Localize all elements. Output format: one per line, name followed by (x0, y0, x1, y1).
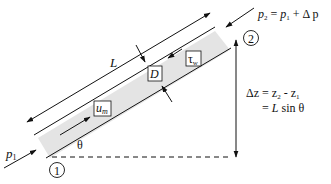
outlet-pressure-arrow (226, 8, 254, 27)
length-label: L (109, 55, 117, 70)
station-2-label: 2 (248, 32, 254, 46)
elevation-equation-line1: Δz = z2 - z1 (246, 86, 300, 101)
elevation-equation-line2: = L sin θ (262, 101, 304, 115)
diameter-arrow-bottom (162, 86, 172, 102)
diameter-label: D (149, 67, 159, 81)
station-1-label: 1 (54, 164, 60, 178)
inclined-pipe-diagram: L D τw um p1 p2 = p1 + Δ p θ 1 2 Δz = z2… (0, 0, 331, 184)
pipe-top-wall (34, 27, 215, 135)
diameter-arrow-top (136, 45, 145, 62)
outlet-pressure-equation: p2 = p1 + Δ p (257, 7, 319, 22)
pipe-bottom-wall (46, 48, 231, 158)
pipe-interior (38, 31, 230, 158)
inlet-pressure-label: p1 (5, 146, 17, 162)
angle-label: θ (77, 138, 83, 152)
